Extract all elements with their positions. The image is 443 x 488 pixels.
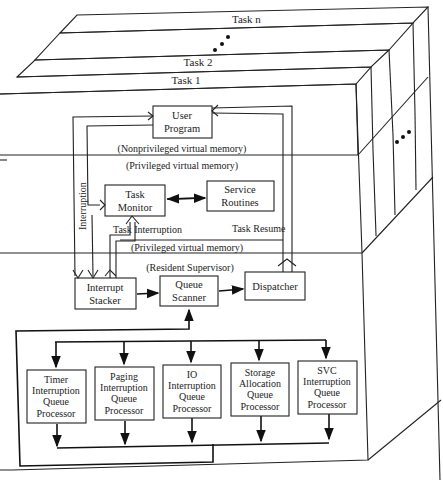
paging-label-4: Processor [105,405,145,416]
svc-label-3: Queue [314,387,341,398]
dispatcher-label: Dispatcher [252,281,298,292]
timer-label-4: Processor [37,408,77,419]
storage-label-4: Processor [241,401,281,412]
io-label-4: Processor [173,403,213,414]
storage-label-3: Queue [247,389,274,400]
stacker-to-scanner-arrow [137,293,158,294]
timer-label-1: Timer [44,374,69,385]
task-1-label: Task 1 [172,74,201,86]
svc-label-4: Processor [308,399,348,410]
nonprivileged-region-label: (Nonprivileged virtual memory) [118,143,247,155]
task-resume-label: Task Resume [232,223,286,234]
timer-label-3: Queue [43,396,70,407]
queue-scanner-label-1: Queue [175,279,203,290]
user-program-label-1: User [172,110,192,121]
storage-label-2: Allocation [239,378,281,389]
io-label-3: Queue [179,391,206,402]
paging-label-3: Queue [111,393,138,404]
queue-scanner-label-2: Scanner [172,292,206,303]
privileged-region-label-top: (Privileged virtual memory) [126,160,238,172]
scanner-to-dispatcher-arrow [219,289,243,291]
user-program-label-2: Program [164,123,200,134]
task-monitor-label-1: Task [125,189,145,200]
paging-label-2: Interruption [100,382,148,393]
io-label-2: Interruption [168,380,216,391]
svc-label-2: Interruption [303,376,351,387]
task-monitor-label-2: Monitor [118,202,153,213]
interruption-label: Interruption [77,182,88,230]
task-interruption-label: Task Interruption [113,224,182,235]
task-n-label: Task n [232,13,261,25]
timer-label-2: Interruption [32,385,80,396]
privileged-region-label-mid: (Privileged virtual memory) [131,242,243,254]
task-layers-diagram: Task n Task 2 Task 1 User Program Task M… [0,0,443,488]
interrupt-stacker-label-1: Interrupt [87,282,124,293]
task-2-label: Task 2 [184,56,213,68]
interrupt-stacker-label-2: Stacker [89,295,121,306]
storage-label-1: Storage [245,367,276,378]
paging-label-1: Paging [110,371,138,382]
io-label-1: IO [187,369,198,380]
svc-label-1: SVC [317,365,337,376]
ellipsis-top [213,35,230,52]
ellipsis-side [395,130,411,144]
service-routines-label-1: Service [224,184,256,195]
resident-supervisor-label: (Resident Supervisor) [146,262,234,274]
service-routines-label-2: Routines [221,197,258,208]
